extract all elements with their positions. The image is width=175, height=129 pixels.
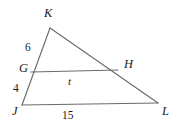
vertex-label-G: G (19, 62, 28, 75)
segment-length-JL: 15 (62, 110, 74, 122)
segment-length-GH: t (68, 76, 71, 87)
vertex-label-K: K (44, 7, 52, 20)
edge-G-H (31, 70, 118, 72)
vertex-label-J: J (12, 105, 18, 118)
segment-length-KG: 6 (25, 42, 31, 54)
vertex-label-H: H (124, 58, 133, 71)
edge-K-L (50, 28, 158, 103)
geometry-figure: K G H J L 6 4 t 15 (0, 0, 175, 129)
edge-J-L (22, 103, 158, 105)
vertex-label-L: L (162, 105, 169, 118)
segment-length-GJ: 4 (13, 83, 19, 95)
